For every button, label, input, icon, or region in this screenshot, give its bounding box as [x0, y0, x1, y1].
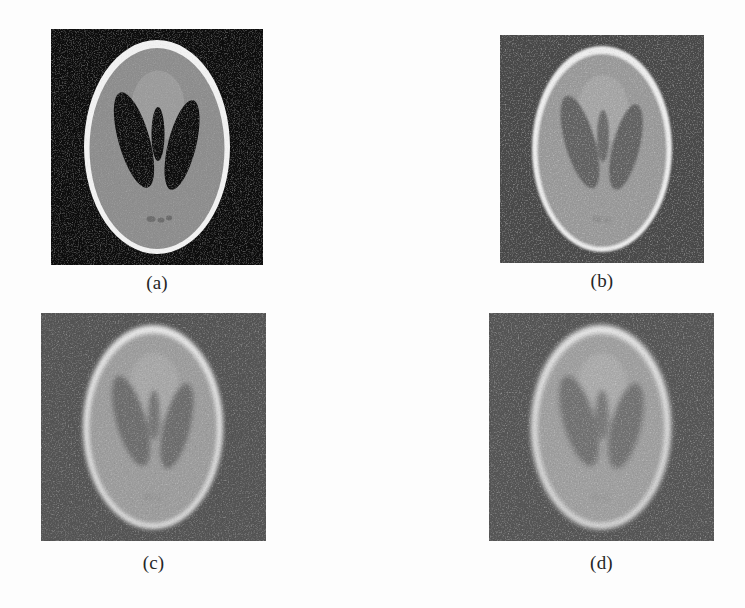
phantom-svg-d [489, 313, 714, 541]
phantom-svg-c [41, 313, 266, 541]
figure-panel-c [41, 313, 266, 541]
figure-panel-a [51, 29, 263, 265]
phantom-image-d [489, 313, 714, 541]
panel-caption-d: (d) [489, 552, 714, 574]
figure-panel-d [489, 313, 714, 541]
panel-caption-c: (c) [41, 552, 266, 574]
figure-panel-b [500, 35, 704, 263]
phantom-svg-a [51, 29, 263, 265]
panel-caption-b: (b) [500, 270, 704, 292]
phantom-image-b [500, 35, 704, 263]
figure-panel-grid: (a) [0, 0, 745, 608]
phantom-svg-b [500, 35, 704, 263]
phantom-image-c [41, 313, 266, 541]
panel-caption-a: (a) [51, 272, 263, 294]
phantom-image-a [51, 29, 263, 265]
